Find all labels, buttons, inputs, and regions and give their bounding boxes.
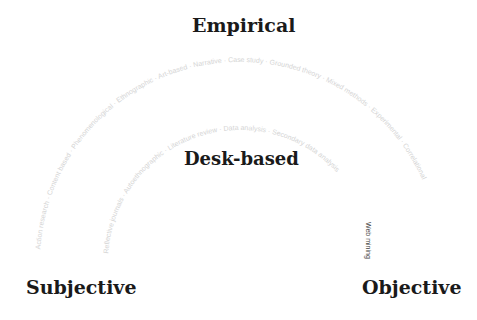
web-mining-label: Web mining xyxy=(365,222,372,259)
outer-arc-labels: Action research · Content based · Phenom… xyxy=(34,56,428,250)
inner-arc-labels: Reflective journals · Autoethnographic ·… xyxy=(102,124,341,254)
arc-diagram: Action research · Content based · Phenom… xyxy=(0,0,477,320)
